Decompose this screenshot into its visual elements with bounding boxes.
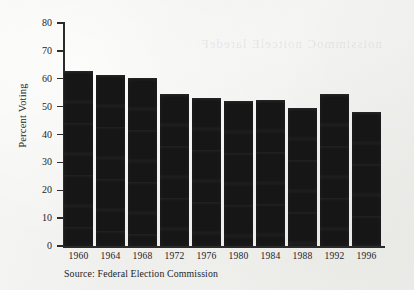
bar	[160, 94, 189, 246]
bar	[192, 98, 221, 246]
bar-chart: 01020304050607080 Percent Voting 1960196…	[0, 0, 414, 290]
bar	[256, 100, 285, 246]
bar	[96, 75, 125, 246]
bar	[288, 108, 317, 246]
chart-page: noissimmoC noitcelE laredeF 010203040506…	[0, 0, 414, 290]
bars-layer	[0, 0, 414, 290]
bar	[224, 101, 253, 246]
source-note: Source: Federal Election Commission	[64, 268, 218, 279]
bar	[64, 71, 93, 246]
bar	[320, 94, 349, 246]
bar	[352, 112, 381, 246]
bar	[128, 78, 157, 246]
x-axis-tick-label: 1996	[347, 250, 387, 261]
